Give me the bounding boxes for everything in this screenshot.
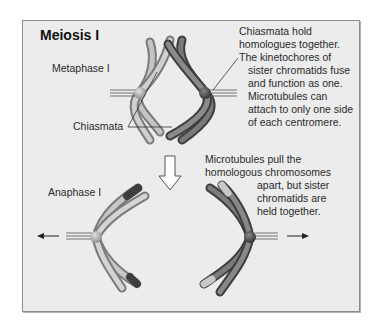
- down-arrow-icon: [159, 156, 181, 190]
- right-arrow-icon: [287, 233, 309, 239]
- anaphase-centromere-left: [90, 231, 102, 243]
- left-arrow-icon: [37, 233, 59, 239]
- anaphase-centromere-right: [244, 231, 256, 243]
- metaphase-microtubules-left: [110, 90, 136, 96]
- metaphase-microtubules-right: [210, 90, 237, 96]
- meiosis-illustration: [0, 0, 381, 322]
- anaphase-microtubules-left: [66, 233, 92, 239]
- centromere-dark: [199, 87, 211, 99]
- anaphase-right-chromosome: [204, 185, 250, 292]
- centromere-light: [134, 87, 146, 99]
- anaphase-left-chromosome: [96, 188, 145, 288]
- anaphase-microtubules-right: [255, 233, 278, 239]
